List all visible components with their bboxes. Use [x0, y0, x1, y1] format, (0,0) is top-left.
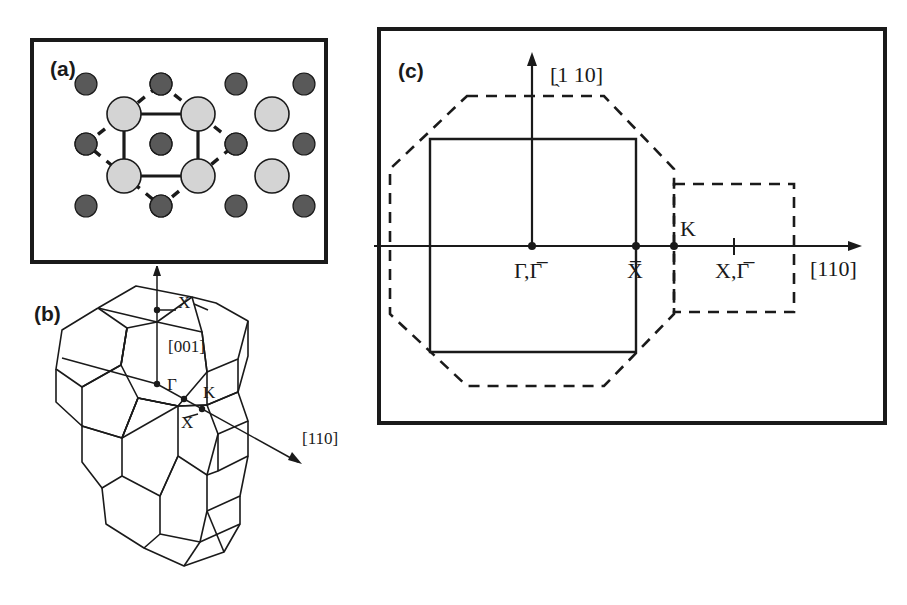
adatom — [107, 159, 141, 193]
substrate-atom — [75, 73, 97, 95]
adatom — [181, 159, 215, 193]
gamma-point-marker — [154, 381, 160, 387]
panel-c-tag: (c) — [398, 59, 424, 82]
panel-a-tag: (a) — [50, 57, 76, 80]
x-gamma-bar-label: X,Γ̅ — [715, 258, 755, 283]
substrate-atom — [225, 73, 247, 95]
panel-b: (b) — [26, 266, 366, 601]
substrate-atom — [150, 73, 172, 95]
panel-a-canvas: (a) — [26, 34, 332, 274]
vertical-axis-label: [̖1 10] — [550, 62, 603, 87]
x-point-mid-marker — [181, 396, 187, 402]
substrate-atom — [150, 195, 172, 217]
vertical-axis-label-group: [̖1 10] — [550, 62, 603, 87]
horizontal-axis-arrowhead — [848, 241, 862, 251]
axis-left-branch — [62, 358, 157, 384]
substrate-atom — [293, 195, 315, 217]
panel-c-frame — [379, 29, 885, 423]
axis-110-arrowhead — [288, 452, 302, 464]
upper-brillouin-zone — [56, 286, 248, 438]
panel-b-canvas: (b) — [26, 266, 366, 601]
adatom — [181, 97, 215, 131]
adatom — [255, 159, 289, 193]
panel-b-tag: (b) — [34, 302, 61, 325]
horizontal-axis-label: [110] — [810, 256, 857, 281]
x-bar-label: X̅ — [627, 258, 643, 283]
panel-b-label-gamma: Γ — [167, 375, 177, 394]
k-point-label: K — [680, 216, 696, 241]
panel-a: (a) — [26, 34, 332, 274]
k-point-marker — [670, 242, 678, 250]
panel-b-label-x-mid: X — [181, 413, 193, 432]
substrate-atom — [225, 133, 247, 155]
panel-c: (c) [̖1 10] [110] — [374, 24, 890, 428]
panel-b-label-k: K — [203, 383, 216, 402]
panel-b-label-x-top: X — [178, 293, 190, 312]
adatom — [107, 97, 141, 131]
substrate-atom — [225, 195, 247, 217]
substrate-atom — [75, 195, 97, 217]
substrate-atom — [293, 73, 315, 95]
x-bar-marker — [632, 242, 640, 250]
figure-root: (a) — [0, 0, 907, 605]
substrate-atom — [75, 133, 97, 155]
substrate-atom — [150, 133, 172, 155]
panel-b-label-001: [001] — [168, 337, 205, 356]
substrate-atom — [293, 133, 315, 155]
vertical-axis-arrowhead — [527, 52, 537, 66]
lower-brillouin-zone — [82, 392, 248, 566]
panel-a-frame — [32, 40, 326, 262]
k-point-marker — [199, 406, 205, 412]
panel-c-canvas: (c) [̖1 10] [110] — [374, 24, 890, 428]
gamma-origin-marker — [528, 242, 536, 250]
axis-001-arrowhead — [153, 266, 161, 276]
adatom — [255, 97, 289, 131]
panel-b-label-110: [110] — [302, 429, 338, 448]
origin-label: Γ,Γ̅ — [514, 258, 548, 283]
